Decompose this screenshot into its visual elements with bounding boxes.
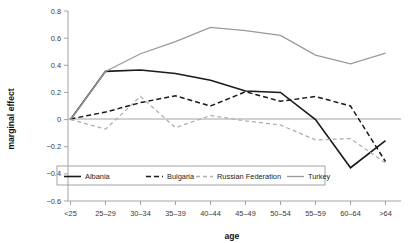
legend-label-russian-federation[interactable]: Russian Federation (217, 172, 281, 181)
y-tick-label: 0.2 (51, 88, 61, 97)
series-line-russian-federation (71, 97, 386, 164)
legend[interactable]: AlbaniaBulgariaRussian FederationTurkey (64, 172, 331, 181)
x-tick-label: 60–64 (340, 209, 361, 218)
marginal-effect-line-chart: marginal effect age −0.6−0.4−0.200.20.40… (0, 0, 409, 243)
x-tick-label: >64 (379, 209, 392, 218)
x-axis-ticks: <2525–2930–3435–3940–4445–4950–5455–5960… (64, 201, 392, 218)
legend-label-bulgaria[interactable]: Bulgaria (167, 172, 195, 181)
x-tick-label: 30–34 (130, 209, 151, 218)
legend-label-turkey[interactable]: Turkey (308, 172, 331, 181)
y-tick-label: −0.2 (46, 142, 61, 151)
x-axis-title: age (225, 231, 240, 241)
y-tick-label: −0.4 (46, 169, 61, 178)
y-tick-label: 0 (57, 115, 61, 124)
x-tick-label: 45–49 (235, 209, 256, 218)
chart-container: marginal effect age −0.6−0.4−0.200.20.40… (0, 0, 409, 243)
y-tick-label: 0.4 (51, 61, 61, 70)
y-tick-label: 0.6 (51, 34, 61, 43)
x-tick-label: 40–44 (200, 209, 221, 218)
y-tick-label: −0.6 (46, 197, 61, 206)
y-axis-title: marginal effect (6, 88, 16, 149)
y-tick-label: 0.8 (51, 7, 61, 16)
series-lines (71, 27, 386, 167)
x-tick-label: 50–54 (270, 209, 291, 218)
x-tick-label: 55–59 (305, 209, 326, 218)
x-tick-label: <25 (64, 209, 77, 218)
x-tick-label: 35–39 (165, 209, 186, 218)
series-line-turkey (71, 27, 386, 119)
legend-label-albania[interactable]: Albania (85, 172, 111, 181)
x-tick-label: 25–29 (95, 209, 116, 218)
